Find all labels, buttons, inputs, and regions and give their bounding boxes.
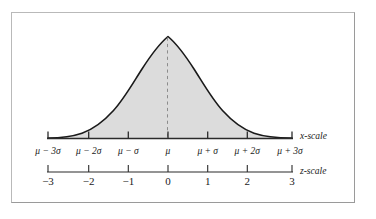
z-tick-label-plus-1: 1	[205, 176, 211, 187]
x-tick-label-plus-3-sigma: μ + 3σ	[277, 147, 302, 157]
x-tick-label-mu: μ	[166, 147, 171, 157]
z-scale-axis-label: z-scale	[300, 167, 326, 177]
x-tick-label-minus-1-sigma: μ − σ	[118, 147, 139, 157]
z-tick-label-zero: 0	[165, 176, 171, 187]
normal-curve-plot	[0, 0, 376, 219]
figure-root: μ − 3σ μ − 2σ μ − σ μ μ + σ μ + 2σ μ + 3…	[0, 0, 376, 219]
x-tick-label-plus-1-sigma: μ + σ	[197, 147, 218, 157]
z-tick-label-minus-2: −2	[83, 176, 95, 187]
x-tick-label-minus-3-sigma: μ − 3σ	[35, 147, 60, 157]
z-tick-label-plus-2: 2	[245, 176, 251, 187]
x-scale-axis-label: x-scale	[300, 132, 327, 142]
z-tick-label-minus-1: −1	[122, 176, 134, 187]
z-tick-label-plus-3: 3	[289, 176, 295, 187]
z-tick-label-minus-3: −3	[42, 176, 54, 187]
x-tick-label-minus-2-sigma: μ − 2σ	[76, 147, 101, 157]
x-tick-label-plus-2-sigma: μ + 2σ	[235, 147, 260, 157]
normal-curve-area	[48, 37, 292, 139]
z-scale-ticks	[48, 165, 292, 172]
